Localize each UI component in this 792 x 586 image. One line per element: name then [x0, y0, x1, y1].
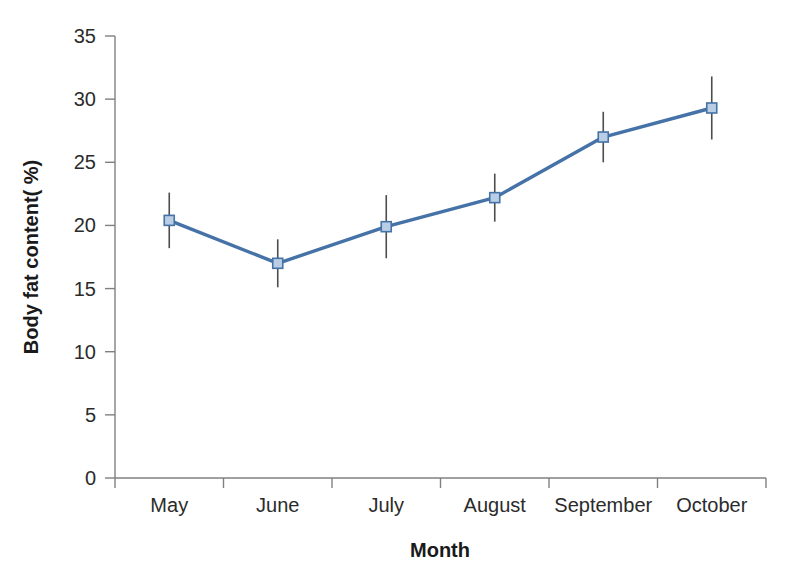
y-tick-label: 30 — [74, 88, 96, 110]
x-tick-label-october: October — [676, 494, 747, 516]
data-point-marker — [381, 222, 391, 232]
y-axis-title: Body fat content( %) — [20, 160, 42, 354]
line-chart-canvas: 0 5 10 15 20 25 30 35 May June July Augu… — [0, 0, 792, 586]
chart-figure: 0 5 10 15 20 25 30 35 May June July Augu… — [0, 0, 792, 586]
y-tick-label: 15 — [74, 278, 96, 300]
x-tick-label-july: July — [368, 494, 404, 516]
y-tick-label: 10 — [74, 341, 96, 363]
x-tick-label-may: May — [150, 494, 188, 516]
data-point-marker — [273, 258, 283, 268]
x-tick-label-september: September — [554, 494, 652, 516]
y-tick-label: 25 — [74, 151, 96, 173]
y-tick-label: 5 — [85, 404, 96, 426]
data-point-marker — [490, 193, 500, 203]
y-tick-label: 0 — [85, 467, 96, 489]
y-tick-label: 20 — [74, 214, 96, 236]
data-point-marker — [598, 132, 608, 142]
y-tick-label: 35 — [74, 25, 96, 47]
data-point-marker — [707, 103, 717, 113]
data-point-marker — [164, 215, 174, 225]
x-axis-title: Month — [410, 539, 470, 561]
x-tick-label-august: August — [464, 494, 527, 516]
x-tick-label-june: June — [256, 494, 299, 516]
